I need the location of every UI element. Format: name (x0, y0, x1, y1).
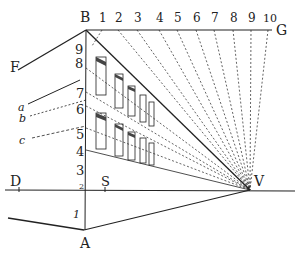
svg-text:4: 4 (156, 11, 164, 25)
line-BA (85, 30, 86, 230)
svg-text:3: 3 (134, 11, 142, 25)
windows-lower (96, 113, 154, 165)
svg-text:8: 8 (75, 56, 83, 71)
horizon-line (5, 190, 295, 191)
vertical-scale-labels: 9 8 7 6 5 4 3 2 1 (73, 42, 84, 221)
svg-text:9: 9 (75, 42, 83, 57)
svg-text:1: 1 (73, 208, 80, 221)
svg-text:2: 2 (115, 11, 123, 25)
scale-rays (92, 30, 268, 190)
ray-4 (86, 150, 250, 190)
svg-text:8: 8 (230, 11, 238, 25)
svg-text:10: 10 (263, 12, 277, 25)
perspective-diagram: B G F D S V A 1 2 3 4 5 6 7 8 9 10 9 8 7… (0, 0, 307, 254)
svg-text:7: 7 (211, 11, 219, 25)
svg-text:1: 1 (99, 11, 107, 25)
line-a (28, 80, 80, 104)
svg-text:c: c (19, 134, 25, 147)
label-D: D (10, 173, 21, 189)
svg-text:9: 9 (248, 11, 256, 25)
label-A: A (79, 235, 91, 251)
label-V: V (253, 173, 265, 189)
line-BV (86, 30, 250, 190)
side-labels: a b c (18, 101, 26, 147)
window-heads (96, 57, 135, 138)
label-F: F (10, 59, 20, 75)
svg-text:5: 5 (174, 11, 182, 25)
svg-text:5: 5 (76, 127, 84, 142)
svg-text:6: 6 (193, 11, 201, 25)
svg-text:b: b (19, 112, 26, 125)
svg-text:2: 2 (79, 182, 84, 191)
line-AV (84, 190, 250, 230)
svg-text:4: 4 (76, 144, 84, 159)
svg-text:6: 6 (76, 102, 84, 117)
label-B: B (80, 9, 90, 25)
label-S: S (101, 174, 110, 189)
label-G: G (276, 22, 287, 38)
top-scale-labels: 1 2 3 4 5 6 7 8 9 10 (99, 11, 277, 25)
svg-text:7: 7 (76, 86, 84, 101)
height-rays (86, 68, 250, 190)
svg-text:3: 3 (76, 163, 84, 178)
